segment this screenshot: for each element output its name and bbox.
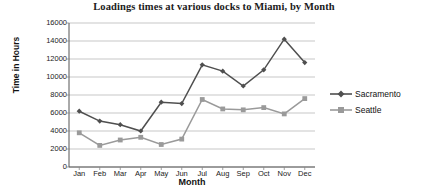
- data-point-seattle: [118, 138, 123, 143]
- legend-item-seattle[interactable]: Seattle: [330, 102, 401, 118]
- legend-marker-diamond-icon: [330, 89, 352, 99]
- legend-item-sacramento[interactable]: Sacramento: [330, 86, 401, 102]
- data-point-sacramento: [179, 101, 184, 106]
- data-point-seattle: [159, 142, 164, 147]
- data-point-sacramento: [118, 122, 123, 127]
- series-line-seattle: [79, 99, 305, 146]
- data-point-seattle: [261, 105, 266, 110]
- data-point-seattle: [282, 112, 287, 117]
- chart-legend: Sacramento Seattle: [330, 86, 401, 118]
- data-point-seattle: [138, 135, 143, 140]
- data-point-seattle: [241, 107, 246, 112]
- data-point-seattle: [302, 96, 307, 101]
- data-point-seattle: [97, 143, 102, 148]
- data-point-seattle: [77, 130, 82, 135]
- data-point-seattle: [179, 137, 184, 142]
- x-axis-label: Month: [69, 177, 315, 187]
- chart-container: Loadings times at various docks to Miami…: [0, 0, 428, 192]
- series-line-sacramento: [79, 39, 305, 131]
- data-point-sacramento: [200, 62, 205, 67]
- legend-label-sacramento: Sacramento: [355, 89, 401, 99]
- data-point-seattle: [200, 97, 205, 102]
- data-point-sacramento: [97, 119, 102, 124]
- data-point-seattle: [220, 107, 225, 112]
- legend-label-seattle: Seattle: [355, 105, 381, 115]
- legend-marker-square-icon: [330, 105, 352, 115]
